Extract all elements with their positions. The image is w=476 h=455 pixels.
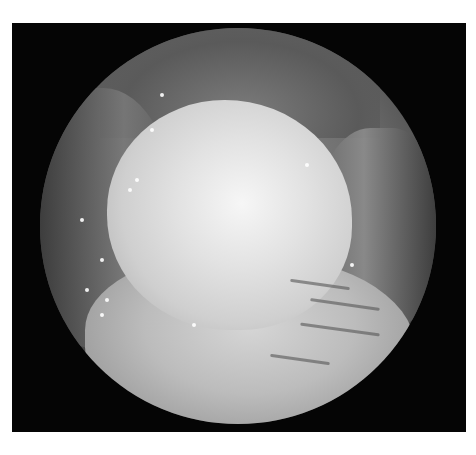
light-glint — [305, 163, 309, 167]
image-frame — [12, 23, 466, 432]
light-glint — [135, 178, 139, 182]
light-glint — [128, 188, 132, 192]
light-glint — [105, 298, 109, 302]
light-glint — [85, 288, 89, 292]
light-glint — [160, 93, 164, 97]
light-glint — [192, 323, 196, 327]
light-glint — [80, 218, 84, 222]
light-glint — [350, 263, 354, 267]
light-glint — [150, 128, 154, 132]
light-glint — [100, 258, 104, 262]
endoscopic-view — [40, 28, 436, 424]
light-glint — [100, 313, 104, 317]
